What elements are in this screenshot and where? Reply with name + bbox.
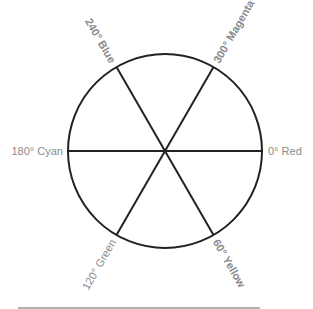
label-60-yellow: 60° Yellow xyxy=(211,237,248,290)
label-240-blue: 240° Blue xyxy=(83,16,118,65)
label-120-green: 120° Green xyxy=(80,237,119,292)
label-300-magenta: 300° Magenta xyxy=(211,0,257,65)
label-0-red: 0° Red xyxy=(268,145,302,157)
color-wheel-diagram: 0° Red 60° Yellow 120° Green 180° Cyan 2… xyxy=(0,0,313,309)
label-180-cyan: 180° Cyan xyxy=(12,145,64,157)
